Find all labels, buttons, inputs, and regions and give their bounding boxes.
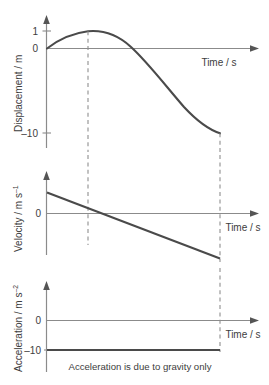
guide-lines-group — [88, 31, 220, 352]
physics-motion-graphs-figure: 1 0 –10 Displacement / m Time / s 0 Velo… — [0, 0, 269, 385]
acceleration-chart: 0 –10 Acceleration / m s–2 Time / s Acce… — [12, 281, 261, 372]
velocity-y-axis-label-superscript: –1 — [12, 185, 19, 193]
displacement-x-axis-arrow — [250, 45, 259, 52]
acceleration-x-axis-label: Time / s — [225, 329, 260, 340]
acceleration-caption: Acceleration is due to gravity only — [69, 361, 212, 372]
displacement-curve — [47, 31, 220, 133]
velocity-ytick-label-0: 0 — [35, 208, 41, 219]
acceleration-y-axis-label-main: Acceleration / m s — [13, 293, 24, 372]
velocity-line — [47, 193, 220, 259]
displacement-x-axis-label: Time / s — [201, 57, 236, 68]
displacement-y-axis-arrow — [43, 15, 50, 24]
displacement-y-axis-label: Displacement / m — [13, 55, 24, 132]
acceleration-ytick-label-0: 0 — [35, 315, 41, 326]
motion-graphs-svg: 1 0 –10 Displacement / m Time / s 0 Velo… — [0, 0, 269, 385]
acceleration-x-axis-arrow — [250, 317, 259, 324]
velocity-y-axis-arrow — [43, 171, 50, 180]
displacement-ytick-label-0: 0 — [32, 43, 38, 54]
acceleration-y-axis-arrow — [43, 281, 50, 290]
displacement-chart: 1 0 –10 Displacement / m Time / s — [13, 15, 259, 148]
displacement-ytick-label-1: 1 — [32, 26, 38, 37]
velocity-x-axis-label: Time / s — [225, 222, 260, 233]
velocity-y-axis-label-main: Velocity / m s — [13, 193, 24, 252]
acceleration-y-axis-label: Acceleration / m s–2 — [12, 285, 24, 372]
velocity-x-axis-arrow — [250, 210, 259, 217]
acceleration-ytick-label-minus10: –10 — [24, 345, 41, 356]
velocity-y-axis-label: Velocity / m s–1 — [12, 185, 24, 252]
acceleration-y-axis-label-superscript: –2 — [12, 285, 19, 293]
velocity-chart: 0 Velocity / m s–1 Time / s — [12, 171, 261, 259]
